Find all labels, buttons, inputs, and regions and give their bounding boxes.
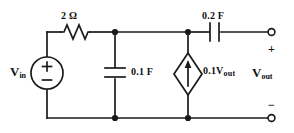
resistor-label: 2 Ω	[61, 11, 77, 21]
resistor-zigzag-symbol	[61, 25, 90, 39]
dependent-source-label: 0.1Vout	[203, 66, 235, 76]
output-terminal-positive	[268, 29, 275, 36]
junction-dot-node1-top	[112, 29, 118, 35]
output-polarity-plus: +	[268, 43, 275, 55]
output-terminal-negative	[268, 115, 275, 122]
dependent-source-subscript: out	[224, 69, 236, 78]
junction-dot-node2-bottom	[185, 115, 191, 121]
voltage-source-variable: V	[10, 64, 19, 79]
output-voltage-label: Vout	[252, 66, 273, 79]
junction-dot-node1-bottom	[112, 115, 118, 121]
output-polarity-minus: −	[268, 99, 275, 111]
dependent-source-gain: 0.1	[203, 65, 216, 76]
circuit-diagram: 2 Ω 0.2 F 0.1 F 0.1Vout Vin Vout + −	[0, 0, 294, 133]
output-voltage-variable: V	[252, 65, 261, 80]
capacitor-series-label: 0.2 F	[202, 11, 224, 21]
capacitor-shunt-label: 0.1 F	[131, 67, 153, 77]
dependent-source-variable: V	[216, 65, 223, 76]
voltage-source-subscript: in	[19, 71, 26, 80]
output-voltage-subscript: out	[261, 72, 272, 81]
junction-dot-node2-top	[185, 29, 191, 35]
voltage-source-label: Vin	[10, 65, 26, 78]
